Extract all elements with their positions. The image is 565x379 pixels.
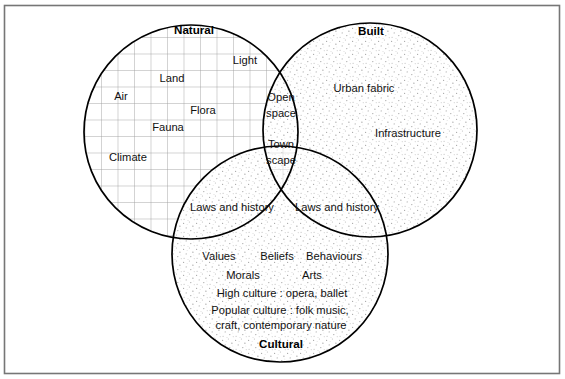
intersection-natural-built-line1: Open xyxy=(267,91,294,103)
intersection-all-three-line2: scape xyxy=(266,154,296,166)
built-item-urban-fabric: Urban fabric xyxy=(334,82,395,94)
natural-item-land: Land xyxy=(160,72,185,84)
intersection-all-three-line1: Town xyxy=(268,138,294,150)
cultural-item-popular-culture-line1: Popular culture : folk music, xyxy=(211,304,348,316)
circle-title-cultural: Cultural xyxy=(259,337,303,350)
cultural-item-behaviours: Behaviours xyxy=(306,250,362,262)
built-item-infrastructure: Infrastructure xyxy=(375,127,441,139)
venn-diagram-canvas: Natural Built Cultural Air Land Light Fl… xyxy=(0,0,565,379)
natural-item-air: Air xyxy=(114,90,128,102)
cultural-item-arts: Arts xyxy=(302,269,322,281)
intersection-built-cultural: Laws and history xyxy=(295,201,379,213)
natural-item-climate: Climate xyxy=(109,151,147,163)
cultural-item-beliefs: Beliefs xyxy=(260,250,294,262)
cultural-item-values: Values xyxy=(202,250,236,262)
circle-title-built: Built xyxy=(358,24,384,37)
natural-item-fauna: Fauna xyxy=(152,121,184,133)
natural-item-light: Light xyxy=(233,54,258,66)
intersection-natural-built-line2: space xyxy=(266,107,296,119)
cultural-item-high-culture: High culture : opera, ballet xyxy=(217,287,348,299)
circle-title-natural: Natural xyxy=(174,23,214,36)
venn-diagram-figure: Natural Built Cultural Air Land Light Fl… xyxy=(0,0,565,379)
cultural-item-morals: Morals xyxy=(226,269,260,281)
cultural-item-popular-culture-line2: craft, contemporary nature xyxy=(215,319,346,331)
intersection-natural-cultural: Laws and history xyxy=(190,201,274,213)
natural-item-flora: Flora xyxy=(190,104,216,116)
